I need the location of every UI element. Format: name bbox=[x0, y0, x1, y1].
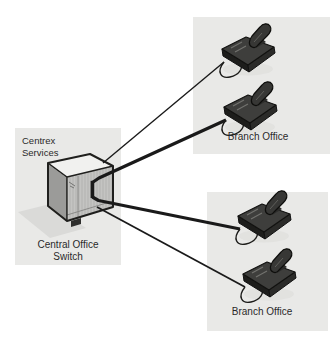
wire-switch-to-branch-top-phone-2 bbox=[92, 120, 226, 183]
telephone-icon-branch-top-1 bbox=[220, 24, 275, 77]
central-office-switch-icon bbox=[18, 154, 113, 238]
branch-office-bottom-label: Branch Office bbox=[200, 306, 324, 318]
telephone-icon-branch-top-2 bbox=[222, 82, 277, 135]
branch-office-top-label: Branch Office bbox=[193, 131, 323, 143]
telephone-icon-branch-bottom-1 bbox=[236, 191, 291, 244]
central-office-switch-label: Central Office Switch bbox=[15, 239, 121, 262]
centrex-diagram: Centrex Services Central Office Switch B… bbox=[0, 0, 335, 345]
diagram-artwork bbox=[0, 0, 335, 345]
telephone-icon-branch-bottom-2 bbox=[241, 249, 296, 302]
centrex-services-label: Centrex Services bbox=[22, 135, 58, 158]
wire-switch-to-branch-bottom-phone-1 bbox=[92, 197, 240, 229]
